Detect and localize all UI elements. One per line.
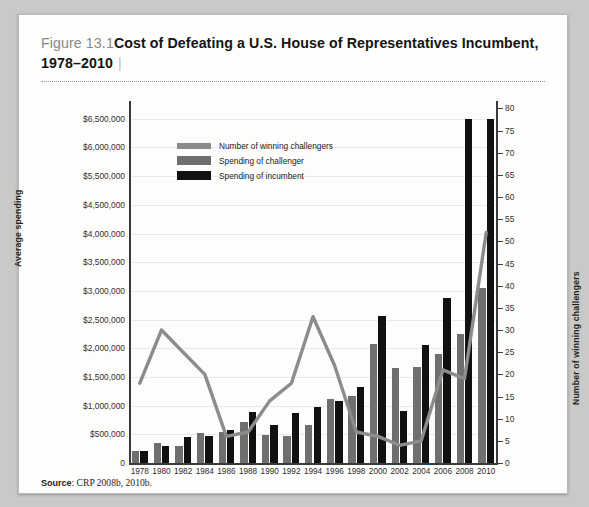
- chart-legend: Number of winning challengersSpending of…: [177, 139, 333, 184]
- figure-page: Figure 13.1|Cost of Defeating a U.S. Hou…: [0, 0, 589, 507]
- y2-axis-tick: [498, 441, 503, 442]
- legend-item: Number of winning challengers: [177, 139, 333, 152]
- y2-axis-tick-label: 30: [505, 325, 514, 335]
- y-axis-tick-label: 0: [120, 458, 125, 468]
- y2-axis-tick-label: 45: [505, 259, 514, 269]
- legend-item: Spending of challenger: [177, 154, 333, 167]
- source-text: CRP 2008b, 2010b.: [77, 477, 152, 488]
- y2-axis-tick-label: 15: [505, 392, 514, 402]
- y-axis-tick-label: $1,000,000: [83, 401, 125, 411]
- figure-card: Figure 13.1|Cost of Defeating a U.S. Hou…: [18, 14, 568, 494]
- x-axis-tick-label: 1978: [131, 467, 149, 476]
- y2-axis-tick-label: 80: [505, 103, 514, 113]
- y2-axis-tick-label: 25: [505, 347, 514, 357]
- source-colon: :: [72, 477, 75, 488]
- y-axis-tick-label: $4,000,000: [83, 229, 125, 239]
- legend-label: Spending of incumbent: [219, 171, 304, 181]
- y-axis-tick-label: $5,500,000: [83, 171, 125, 181]
- y2-axis-tick: [498, 308, 503, 309]
- x-axis-tick-label: 1994: [304, 467, 322, 476]
- legend-swatch-incumbent: [177, 171, 211, 180]
- y2-axis-tick-label: 35: [505, 303, 514, 313]
- x-axis-tick-label: 1998: [347, 467, 365, 476]
- y-axis-tick-label: $2,500,000: [83, 315, 125, 325]
- y2-axis-tick: [498, 330, 503, 331]
- line-number-of-winning-challengers: [140, 233, 486, 446]
- x-axis-tick-label: 2002: [390, 467, 408, 476]
- y2-axis-tick: [498, 131, 503, 132]
- y-axis-tick-label: $3,000,000: [83, 286, 125, 296]
- y-axis-tick-label: $6,500,000: [83, 114, 125, 124]
- legend-label: Number of winning challengers: [219, 141, 333, 151]
- y2-axis-tick: [498, 264, 503, 265]
- x-axis-tick-label: 1990: [261, 467, 279, 476]
- right-axis-line: [496, 101, 498, 465]
- y2-axis-tick-label: 10: [505, 414, 514, 424]
- y-axis-tick-label: $4,500,000: [83, 200, 125, 210]
- x-axis-tick-label: 1996: [326, 467, 344, 476]
- y-axis-tick-label: $1,500,000: [83, 372, 125, 382]
- legend-label: Spending of challenger: [219, 156, 304, 166]
- legend-swatch-line: [177, 143, 211, 149]
- y2-axis-tick: [498, 352, 503, 353]
- x-axis-tick-label: 2000: [369, 467, 387, 476]
- y2-axis-tick-label: 65: [505, 170, 514, 180]
- y2-axis-tick-label: 70: [505, 148, 514, 158]
- y2-axis-tick-label: 40: [505, 281, 514, 291]
- source-label: Source: [41, 478, 72, 488]
- y2-axis-tick: [498, 397, 503, 398]
- y2-axis-tick-label: 20: [505, 369, 514, 379]
- x-axis-tick-label: 1982: [174, 467, 192, 476]
- y-axis-tick-label: $2,000,000: [83, 343, 125, 353]
- x-axis-tick-label: 1986: [217, 467, 235, 476]
- x-axis-tick-label: 2008: [455, 467, 473, 476]
- y2-axis-tick: [498, 108, 503, 109]
- y2-axis-tick-label: 5: [505, 436, 510, 446]
- y-axis-tick-label: $3,500,000: [83, 257, 125, 267]
- y2-axis-labels: 05101520253035404550556065707580: [505, 15, 545, 507]
- y2-axis-tick: [498, 463, 503, 464]
- legend-swatch-challenger: [177, 156, 211, 165]
- y-axis-labels: 0$500,000$1,000,000$1,500,000$2,000,000$…: [45, 15, 125, 507]
- x-axis-tick-label: 1992: [282, 467, 300, 476]
- y-axis-tick-label: $6,000,000: [83, 142, 125, 152]
- y2-axis-tick-label: 50: [505, 236, 514, 246]
- y2-axis-tick: [498, 419, 503, 420]
- legend-item: Spending of incumbent: [177, 169, 333, 182]
- source-note: Source: CRP 2008b, 2010b.: [41, 477, 152, 488]
- x-axis-tick-label: 2010: [477, 467, 495, 476]
- y2-axis-tick: [498, 153, 503, 154]
- x-axis-tick-label: 2004: [412, 467, 430, 476]
- y2-axis-tick-label: 55: [505, 214, 514, 224]
- y2-axis-tick: [498, 197, 503, 198]
- y2-axis-tick-label: 75: [505, 126, 514, 136]
- y2-axis-title: Number of winning challengers: [571, 271, 581, 405]
- y2-axis-tick: [498, 175, 503, 176]
- x-axis-tick-label: 1988: [239, 467, 257, 476]
- x-axis-tick-label: 1980: [152, 467, 170, 476]
- x-axis-tick-label: 1984: [196, 467, 214, 476]
- y-axis-tick-label: $500,000: [90, 429, 125, 439]
- y2-axis-tick-label: 0: [505, 458, 510, 468]
- y2-axis-tick: [498, 374, 503, 375]
- y2-axis-tick: [498, 219, 503, 220]
- y2-axis-tick-label: 60: [505, 192, 514, 202]
- y-axis-title: Average spending: [13, 190, 23, 267]
- y2-axis-tick: [498, 241, 503, 242]
- y2-axis-tick: [498, 286, 503, 287]
- x-axis-tick-label: 2006: [434, 467, 452, 476]
- left-axis-line: [129, 101, 131, 465]
- x-axis-line: [129, 463, 498, 465]
